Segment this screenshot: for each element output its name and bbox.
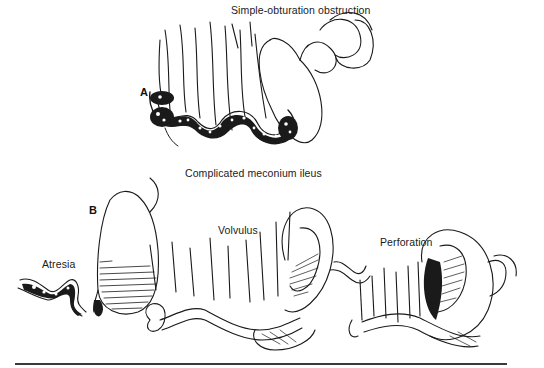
dilated-loop-drawing xyxy=(93,178,158,314)
intestine-illustration xyxy=(0,0,544,368)
figure-bottom-rule xyxy=(15,363,507,365)
volvulus-drawing xyxy=(146,208,370,350)
